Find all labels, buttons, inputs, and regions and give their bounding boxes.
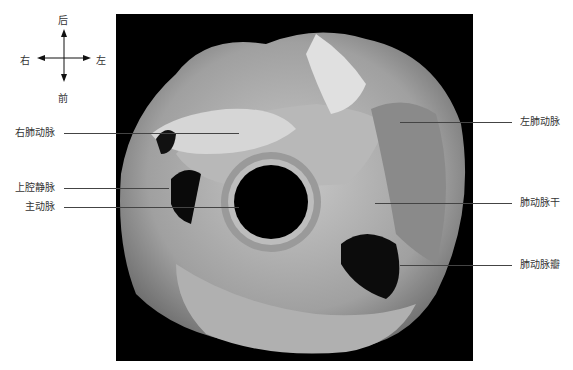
direction-left: 左 [96,52,106,67]
leader-line [400,122,512,123]
specimen-photo [116,14,473,361]
label-right-pulmonary-artery: 右肺动脉 [15,127,55,139]
orientation-compass: 后 前 右 左 [0,0,120,110]
label-superior-vena-cava: 上腔静脉 [15,182,55,194]
direction-right: 右 [20,52,30,67]
label-pulmonary-trunk: 肺动脉干 [520,197,560,209]
label-pulmonary-valve: 肺动脉瓣 [520,259,560,271]
leader-line [375,203,512,204]
label-aorta: 主动脉 [25,201,55,213]
leader-line [64,133,239,134]
label-left-pulmonary-artery: 左肺动脉 [520,116,560,128]
leader-line [64,188,169,189]
leader-line [400,265,512,266]
direction-posterior: 后 [58,12,68,27]
heart-specimen-image [116,14,473,361]
leader-line [64,207,239,208]
direction-anterior: 前 [58,90,68,105]
